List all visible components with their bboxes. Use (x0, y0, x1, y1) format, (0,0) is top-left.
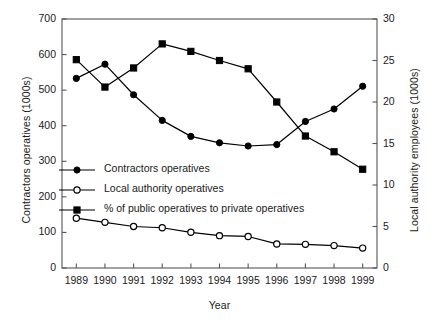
data-point-filled-square (274, 99, 280, 105)
data-point-filled-circle (102, 61, 108, 67)
data-point-open-circle (102, 219, 108, 225)
legend-label: % of public operatives to private operat… (104, 202, 304, 214)
chart-figure: Contractors operatives (1000s) Local aut… (0, 0, 434, 319)
data-point-filled-circle (188, 133, 194, 139)
data-point-open-circle (188, 229, 194, 235)
data-point-open-circle (302, 241, 308, 247)
data-point-filled-square (188, 48, 194, 54)
data-point-filled-square (102, 84, 108, 90)
y-axis-right-tick-label: 30 (383, 12, 417, 24)
data-point-filled-square (73, 57, 79, 63)
series-line (76, 64, 362, 146)
y-axis-left-tick-label: 500 (22, 83, 56, 95)
data-point-filled-circle (216, 140, 222, 146)
y-axis-left-tick-label: 300 (22, 154, 56, 166)
y-axis-right-tick-label: 15 (383, 137, 417, 149)
data-point-open-circle (274, 241, 280, 247)
data-point-filled-square (360, 166, 366, 172)
x-axis-tick-label: 1999 (343, 274, 383, 286)
y-axis-left-tick-label: 100 (22, 225, 56, 237)
y-axis-left-tick-label: 400 (22, 119, 56, 131)
data-point-open-circle (130, 223, 136, 229)
x-axis-title: Year (62, 299, 377, 311)
series-contractors-operatives (73, 61, 366, 149)
y-axis-right-tick-label: 5 (383, 220, 417, 232)
data-point-filled-square (130, 65, 136, 71)
y-axis-right-tick-label: 10 (383, 178, 417, 190)
data-point-filled-square (245, 66, 251, 72)
y-axis-right-tick-label: 20 (383, 95, 417, 107)
data-point-open-circle (331, 242, 337, 248)
data-point-open-circle (245, 233, 251, 239)
data-point-filled-square (331, 149, 337, 155)
data-point-open-circle (159, 225, 165, 231)
y-axis-right-tick-label: 25 (383, 54, 417, 66)
y-axis-left-tick-label: 0 (22, 261, 56, 273)
data-point-filled-circle (360, 83, 366, 89)
legend-label: Local authority operatives (104, 182, 224, 194)
data-point-filled-square (159, 41, 165, 47)
data-point-filled-circle (130, 92, 136, 98)
data-point-filled-circle (159, 117, 165, 123)
chart-plot-area (0, 0, 434, 319)
data-point-filled-square (216, 57, 222, 63)
data-point-open-circle (360, 245, 366, 251)
data-point-filled-circle (331, 106, 337, 112)
data-point-filled-circle (274, 141, 280, 147)
data-point-filled-circle (73, 75, 79, 81)
data-point-filled-circle (302, 118, 308, 124)
data-point-filled-square (302, 133, 308, 139)
data-point-open-circle (216, 233, 222, 239)
y-axis-left-tick-label: 200 (22, 190, 56, 202)
y-axis-left-tick-label: 700 (22, 12, 56, 24)
legend-marker-filled-square (58, 203, 98, 217)
series-of-public-operatives-to-private-operatives (73, 41, 366, 173)
data-point-filled-circle (245, 143, 251, 149)
legend-marker-filled-circle (58, 163, 98, 177)
legend-marker-open-circle (58, 183, 98, 197)
y-axis-left-title: Contractors operatives (1000s) (20, 50, 32, 250)
y-axis-right-tick-label: 0 (383, 261, 417, 273)
series-local-authority-operatives (73, 215, 366, 251)
legend-label: Contractors operatives (104, 162, 210, 174)
y-axis-left-tick-label: 600 (22, 48, 56, 60)
